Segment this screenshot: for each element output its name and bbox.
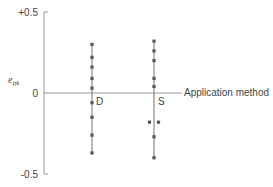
series-S: S <box>148 40 165 160</box>
data-point <box>152 59 155 62</box>
data-point <box>90 134 93 137</box>
data-point <box>148 121 151 124</box>
data-point <box>152 49 155 52</box>
y-axis-label: eijk <box>8 74 20 87</box>
data-point <box>90 56 93 59</box>
data-series: DS <box>90 40 165 160</box>
data-point <box>90 43 93 46</box>
data-point <box>90 65 93 68</box>
data-point <box>90 77 93 80</box>
category-label-S: S <box>158 96 165 107</box>
data-point <box>152 40 155 43</box>
data-point <box>152 135 155 138</box>
series-D: D <box>90 43 103 155</box>
data-point <box>90 116 93 119</box>
data-point <box>90 87 93 90</box>
data-point <box>152 77 155 80</box>
category-label-D: D <box>96 96 103 107</box>
y-axis: +0.5 0 -0.5 eijk <box>8 7 48 180</box>
data-point <box>90 101 93 104</box>
data-point <box>152 156 155 159</box>
y-tick-bottom: -0.5 <box>21 169 39 180</box>
x-axis-label: Application method <box>184 87 269 98</box>
y-tick-zero: 0 <box>32 88 38 99</box>
x-axis: Application method <box>44 87 269 98</box>
residual-dot-plot: +0.5 0 -0.5 eijk Application method DS <box>0 0 273 187</box>
data-point <box>90 151 93 154</box>
y-tick-top: +0.5 <box>18 7 38 18</box>
data-point <box>157 121 160 124</box>
data-point <box>152 85 155 88</box>
